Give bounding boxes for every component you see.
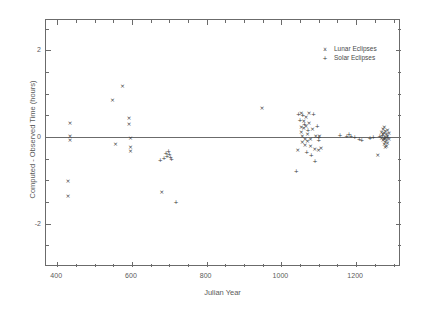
axis-tick: [46, 245, 49, 246]
axis-tick: [95, 20, 96, 23]
axis-tick: [76, 264, 77, 267]
axis-tick: [396, 224, 401, 225]
axis-tick: [281, 262, 282, 267]
axis-tick: [300, 264, 301, 267]
axis-tick: [46, 180, 49, 181]
axis-tick: [46, 202, 49, 203]
plot-area: ××××××××××××××××××××××××××××××××××××××××…: [45, 19, 400, 266]
axis-tick: [337, 20, 338, 23]
axis-tick: [398, 115, 401, 116]
axis-tick: [244, 20, 245, 23]
axis-tick: [46, 94, 49, 95]
eclipse-timing-residual-chart: ××××××××××××××××××××××××××××××××××××××××…: [0, 0, 422, 313]
axis-tick: [319, 264, 320, 267]
axis-tick: [57, 20, 58, 25]
legend-label-lunar: Lunar Eclipses: [334, 45, 377, 52]
y-axis-label: Computed - Observed Time (hours): [28, 35, 37, 245]
axis-tick: [398, 94, 401, 95]
axis-tick: [113, 20, 114, 23]
axis-tick: [151, 264, 152, 267]
axis-tick: [356, 20, 357, 25]
axis-tick: [398, 180, 401, 181]
axis-tick: [396, 137, 401, 138]
axis-tick: [398, 159, 401, 160]
axis-tick: [319, 20, 320, 23]
axis-tick: [169, 264, 170, 267]
axis-tick: [46, 115, 49, 116]
axis-tick: [113, 264, 114, 267]
axis-tick: [46, 29, 49, 30]
axis-tick: [398, 72, 401, 73]
axis-tick: [46, 159, 49, 160]
legend-item-lunar-eclipses: x Lunar Eclipses: [318, 44, 377, 53]
axis-tick: [375, 20, 376, 23]
lunar-marker-icon: x: [318, 45, 332, 52]
axis-tick: [300, 20, 301, 23]
x-axis-label: Julian Year: [45, 288, 400, 297]
axis-tick: [394, 264, 395, 267]
x-tick-label: 1000: [273, 272, 289, 279]
x-tick-label: 1200: [347, 272, 363, 279]
axis-tick: [263, 20, 264, 23]
axis-tick: [207, 20, 208, 25]
axis-tick: [76, 20, 77, 23]
axis-tick: [46, 50, 51, 51]
axis-tick: [398, 202, 401, 203]
axis-tick: [398, 29, 401, 30]
axis-tick: [394, 20, 395, 23]
axis-tick: [188, 20, 189, 23]
solar-marker-icon: +: [318, 54, 332, 61]
axis-tick: [225, 20, 226, 23]
x-tick-label: 800: [200, 272, 212, 279]
axis-tick: [132, 262, 133, 267]
axis-tick: [263, 264, 264, 267]
axis-tick: [57, 262, 58, 267]
legend-item-solar-eclipses: + Solar Eclipses: [318, 53, 377, 62]
axis-tick: [356, 262, 357, 267]
axis-tick: [244, 264, 245, 267]
axis-tick: [375, 264, 376, 267]
axis-tick: [151, 20, 152, 23]
x-tick-label: 400: [50, 272, 62, 279]
x-tick-label: 600: [125, 272, 137, 279]
axis-tick: [396, 50, 401, 51]
axis-tick: [188, 264, 189, 267]
axis-tick: [398, 245, 401, 246]
axis-tick: [207, 262, 208, 267]
axis-tick: [132, 20, 133, 25]
chart-legend: x Lunar Eclipses + Solar Eclipses: [318, 44, 377, 62]
axis-tick: [46, 72, 49, 73]
axis-tick: [46, 224, 51, 225]
axis-tick: [95, 264, 96, 267]
axis-tick: [169, 20, 170, 23]
axis-tick: [46, 137, 51, 138]
axis-tick: [281, 20, 282, 25]
legend-label-solar: Solar Eclipses: [334, 54, 375, 61]
axis-tick: [337, 264, 338, 267]
axis-tick: [225, 264, 226, 267]
